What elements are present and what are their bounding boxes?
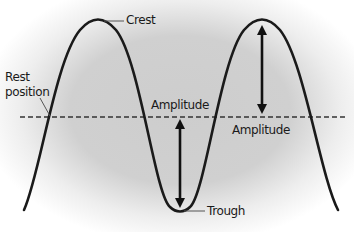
amplitude-arrow-right <box>257 25 267 114</box>
wave-diagram: Crest Trough Rest position Amplitude Amp… <box>0 0 354 232</box>
trough-label: Trough <box>207 204 245 218</box>
crest-label: Crest <box>126 13 155 27</box>
rest-position-label-line2: position <box>5 85 49 100</box>
amplitude-label-left: Amplitude <box>151 98 209 112</box>
rest-position-label: Rest position <box>5 70 49 100</box>
rest-position-label-line1: Rest <box>5 70 49 85</box>
wave-figure <box>0 0 354 232</box>
rest-position-leader-line <box>40 98 50 116</box>
amplitude-arrow-left <box>175 119 185 208</box>
amplitude-label-right: Amplitude <box>232 123 290 137</box>
